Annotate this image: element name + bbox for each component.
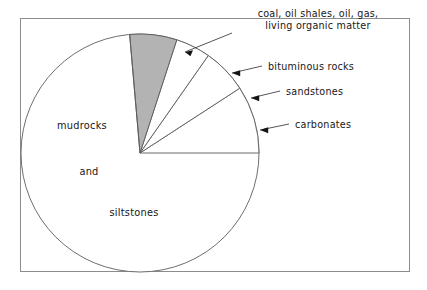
inner-label-and: and bbox=[79, 166, 98, 177]
callout-label-sandstones: sandstones bbox=[286, 86, 343, 97]
callout-label-organic-line1: coal, oil shales, oil, gas, bbox=[258, 8, 379, 19]
callout-label-carbonates: carbonates bbox=[295, 119, 351, 130]
callout-label-organic-line2: living organic matter bbox=[265, 20, 370, 31]
inner-label-siltstones: siltstones bbox=[109, 207, 158, 218]
inner-label-mudrocks: mudrocks bbox=[57, 120, 107, 131]
figure-root: coal, oil shales, oil, gas, living organ… bbox=[0, 0, 427, 290]
sedimentary-rock-pie-chart: coal, oil shales, oil, gas, living organ… bbox=[0, 0, 427, 290]
callout-label-bituminous: bituminous rocks bbox=[268, 61, 354, 72]
